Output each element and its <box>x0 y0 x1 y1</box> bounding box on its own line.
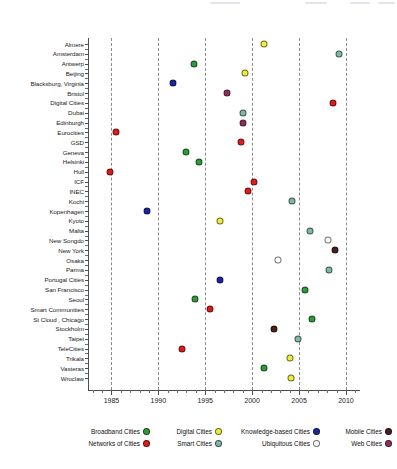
data-point[interactable] <box>223 90 230 97</box>
y-axis-minor-tick <box>85 128 88 129</box>
y-axis-minor-tick <box>85 334 88 335</box>
legend-item[interactable]: Digital Cities <box>160 426 222 437</box>
legend-swatch <box>313 440 320 447</box>
data-point[interactable] <box>191 296 198 303</box>
legend-item[interactable]: Ubiquitous Cities <box>228 438 320 449</box>
x-axis-tick <box>346 390 347 395</box>
x-axis-minor-tick <box>355 390 356 393</box>
data-point[interactable] <box>178 345 185 352</box>
y-axis-minor-tick <box>85 373 88 374</box>
y-axis-label: St Cloud , Chicago <box>33 316 84 323</box>
legend-item[interactable]: Networks of Cities <box>78 438 150 449</box>
y-axis-label: Osaka <box>66 257 84 264</box>
y-axis-label: GSD <box>71 139 84 146</box>
artifact-mark <box>305 2 327 4</box>
data-point[interactable] <box>206 306 213 313</box>
legend-swatch <box>215 428 222 435</box>
y-axis-label: Kyoto <box>68 217 84 224</box>
y-axis-minor-tick <box>85 196 88 197</box>
data-point[interactable] <box>325 237 332 244</box>
legend-swatch <box>313 428 320 435</box>
y-axis-label: Trikala <box>66 355 84 362</box>
data-point[interactable] <box>336 50 343 57</box>
data-point[interactable] <box>217 217 224 224</box>
x-axis-minor-tick <box>215 390 216 393</box>
data-point[interactable] <box>270 325 277 332</box>
y-axis-minor-tick <box>85 216 88 217</box>
x-axis-minor-tick <box>121 390 122 393</box>
data-point[interactable] <box>275 257 282 264</box>
y-axis-label: Malta <box>69 227 84 234</box>
y-axis-minor-tick <box>85 353 88 354</box>
legend-label: Networks of Cities <box>89 440 141 447</box>
y-axis-label: Beijing <box>66 70 84 77</box>
data-point[interactable] <box>217 276 224 283</box>
y-axis-minor-tick <box>85 157 88 158</box>
y-axis-minor-tick <box>85 186 88 187</box>
y-axis-label: Vasteras <box>60 365 84 372</box>
data-point[interactable] <box>295 335 302 342</box>
y-axis-minor-tick <box>85 255 88 256</box>
y-axis-label: Wroclaw <box>61 375 84 382</box>
x-axis-minor-tick <box>102 390 103 393</box>
data-point[interactable] <box>287 375 294 382</box>
y-axis-minor-tick <box>85 49 88 50</box>
x-axis-ticks <box>88 390 360 396</box>
y-axis-label: San Francisco <box>45 286 84 293</box>
data-point[interactable] <box>170 80 177 87</box>
y-axis-label: Portugal Cities <box>45 276 85 283</box>
x-gridline <box>252 38 253 390</box>
clipped-header-artifact <box>210 0 395 7</box>
data-point[interactable] <box>245 188 252 195</box>
legend-swatch <box>143 440 150 447</box>
y-axis-label: Helsinki <box>63 158 84 165</box>
y-axis-minor-tick <box>85 324 88 325</box>
legend-item[interactable]: Broadband Cities <box>78 426 150 437</box>
artifact-mark <box>378 2 395 4</box>
data-point[interactable] <box>331 247 338 254</box>
x-axis-minor-tick <box>280 390 281 393</box>
data-point[interactable] <box>326 266 333 273</box>
data-point[interactable] <box>309 316 316 323</box>
data-point[interactable] <box>190 60 197 67</box>
x-axis-tick <box>252 390 253 395</box>
data-point[interactable] <box>301 286 308 293</box>
data-point[interactable] <box>239 109 246 116</box>
data-point[interactable] <box>329 99 336 106</box>
legend-item[interactable]: Web Cities <box>326 438 392 449</box>
legend-item[interactable]: Smart Cities <box>160 438 222 449</box>
y-axis-labels: AlmereAmsterdamAntwerpBeijingBlacksburg,… <box>0 38 84 390</box>
data-point[interactable] <box>237 139 244 146</box>
x-axis-tick <box>299 390 300 395</box>
x-axis-tick <box>205 390 206 395</box>
data-point[interactable] <box>195 158 202 165</box>
x-axis-minor-tick <box>271 390 272 393</box>
data-point[interactable] <box>307 227 314 234</box>
legend-item[interactable]: Knowledge-based Cities <box>228 426 320 437</box>
legend-label: Ubiquitous Cities <box>262 440 310 447</box>
y-axis-minor-tick <box>85 275 88 276</box>
data-point[interactable] <box>106 168 113 175</box>
data-point[interactable] <box>261 41 268 48</box>
legend-label: Digital Cities <box>176 428 212 435</box>
plot-area <box>88 38 360 390</box>
x-gridline <box>158 38 159 390</box>
y-axis-label: Parma <box>66 266 84 273</box>
legend-swatch <box>143 428 150 435</box>
x-axis-minor-tick <box>243 390 244 393</box>
data-point[interactable] <box>239 119 246 126</box>
data-point[interactable] <box>261 365 268 372</box>
x-axis-minor-tick <box>186 390 187 393</box>
data-point[interactable] <box>288 198 295 205</box>
y-axis-minor-tick <box>85 295 88 296</box>
data-point[interactable] <box>241 70 248 77</box>
x-axis-minor-tick <box>93 390 94 393</box>
data-point[interactable] <box>113 129 120 136</box>
y-axis-minor-tick <box>85 69 88 70</box>
data-point[interactable] <box>144 208 151 215</box>
data-point[interactable] <box>251 178 258 185</box>
y-axis-label: INEC <box>69 188 84 195</box>
data-point[interactable] <box>286 355 293 362</box>
data-point[interactable] <box>183 149 190 156</box>
legend-item[interactable]: Mobile Cities <box>326 426 392 437</box>
